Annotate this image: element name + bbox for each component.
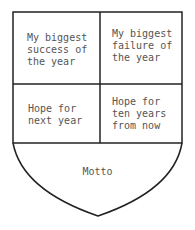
cell-hope-ten-years: Hope for ten years from now <box>112 94 166 134</box>
cell-biggest-success: My biggest success of the year <box>27 30 87 70</box>
cell-hope-next-year: Hope for next year <box>28 102 82 128</box>
motto-label: Motto <box>0 166 195 177</box>
cell-biggest-failure: My biggest failure of the year <box>112 26 172 66</box>
